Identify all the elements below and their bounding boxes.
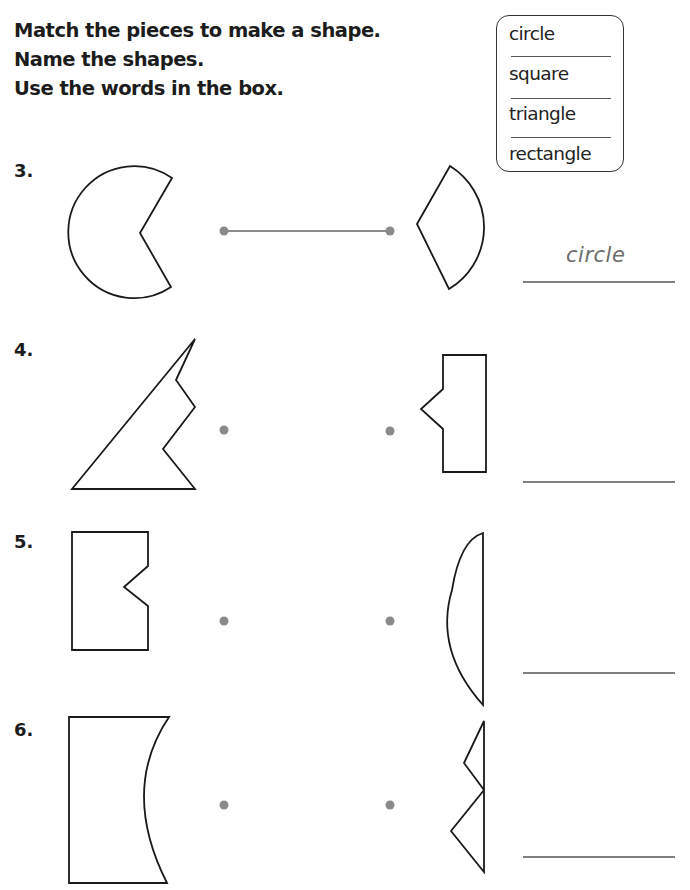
match-dot-right[interactable]	[386, 801, 395, 810]
circle-piece-wedge-shape	[417, 166, 484, 289]
match-dot-left[interactable]	[220, 801, 229, 810]
match-dot-left[interactable]	[220, 617, 229, 626]
rectangle-piece-notched-shape	[72, 532, 148, 650]
rectangle-piece-notched-shape	[421, 355, 486, 472]
circle-piece-pacman-shape	[68, 166, 172, 298]
match-dot-right[interactable]	[386, 617, 395, 626]
circle-piece-segment-shape	[447, 533, 483, 705]
match-dot-left[interactable]	[220, 426, 229, 435]
triangle-piece-left-shape	[72, 339, 195, 489]
answer-text: circle	[566, 243, 625, 267]
rectangle-piece-concave-shape	[69, 717, 169, 883]
match-dot-right[interactable]	[386, 427, 395, 436]
triangle-piece-zigzag-shape	[451, 721, 484, 872]
